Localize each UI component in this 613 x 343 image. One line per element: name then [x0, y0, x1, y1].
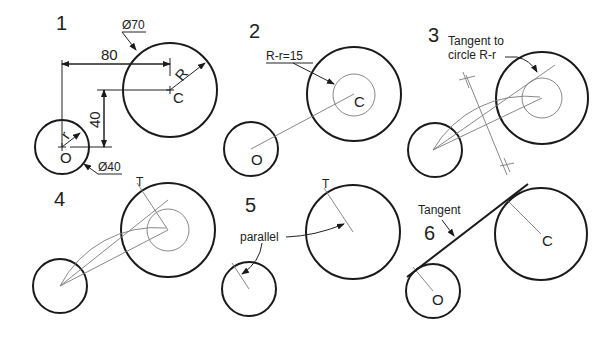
leader-parallel-small	[242, 243, 262, 274]
leader-diameter-40	[84, 164, 98, 174]
panel-4: 4 T	[33, 175, 215, 313]
leader-parallel-large	[286, 224, 344, 237]
line-to-tangent-point	[433, 65, 555, 150]
step-number-3: 3	[428, 24, 439, 46]
arc-intersection-mark	[459, 72, 475, 88]
label-c: C	[173, 89, 184, 106]
small-circle-o	[408, 123, 462, 177]
label-R: R	[171, 65, 191, 84]
leader-diameter-70	[122, 32, 136, 50]
step-number-5: 5	[245, 194, 256, 216]
perpendicular-bisector	[466, 75, 507, 175]
arc-intersection-mark	[500, 158, 514, 172]
step-number-4: 4	[54, 188, 65, 210]
label-o: O	[60, 149, 72, 166]
note-tangent-to: Tangent to	[448, 34, 504, 48]
label-c: C	[354, 93, 365, 110]
radius-through-t	[324, 188, 353, 232]
leader-r-minus-r	[293, 63, 334, 84]
note-circle-r-minus-r: circle R-r	[448, 48, 496, 62]
tangent-construction-diagram: 1 80 40 r R O C Ø70 Ø40 2	[0, 0, 613, 343]
center-line	[251, 94, 354, 149]
radius-through-t	[137, 183, 168, 230]
label-r: r	[57, 128, 74, 142]
panel-3: 3 Tangent to circle R-r	[408, 24, 588, 177]
panel-2: 2 O C R-r=15	[224, 20, 401, 176]
label-o: O	[251, 151, 263, 168]
center-line	[60, 230, 168, 286]
label-c: C	[542, 232, 553, 249]
panel-6: 6 Tangent O C	[406, 184, 587, 318]
dimension-80: 80	[101, 46, 118, 63]
note-parallel: parallel	[240, 230, 279, 244]
panel-5: 5 T parallel	[222, 177, 400, 316]
step-number-6: 6	[424, 222, 435, 244]
step-number-1: 1	[56, 12, 67, 34]
leader-tangent	[442, 220, 454, 236]
note-r-minus-r: R-r=15	[266, 49, 303, 63]
leader-tangent	[517, 57, 537, 72]
diameter-40: Ø40	[98, 160, 121, 174]
center-line	[433, 98, 542, 150]
note-tangent: Tangent	[418, 203, 461, 217]
label-t: T	[322, 177, 330, 191]
dimension-40: 40	[86, 111, 103, 128]
diameter-70: Ø70	[122, 18, 145, 32]
label-o: O	[432, 291, 444, 308]
step-number-2: 2	[249, 20, 260, 42]
label-t: T	[136, 175, 144, 189]
radius-c-to-tangent	[507, 200, 541, 234]
panel-1: 1 80 40 r R O C Ø70 Ø40	[35, 12, 217, 174]
construction-arc	[60, 228, 166, 286]
parallel-radius	[232, 263, 249, 289]
